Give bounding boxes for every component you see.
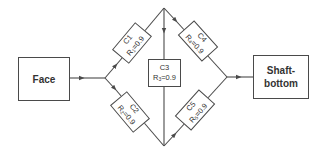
c3-name: C3 bbox=[160, 63, 170, 73]
arrow-to-c5 bbox=[164, 133, 176, 146]
arrow-to-c1 bbox=[105, 64, 117, 78]
shaft-bottom-node: Shaft- bottom bbox=[253, 55, 309, 99]
reliability-diagram: Face Shaft- bottom C1 R1=0.9 C2 R2=0.9 C… bbox=[0, 0, 325, 152]
arrow-to-c2 bbox=[105, 78, 116, 90]
shaft-bottom-label-line1: Shaft- bbox=[267, 64, 295, 77]
component-c3: C3 R3=0.9 bbox=[148, 59, 181, 87]
arrow-to-c4 bbox=[164, 8, 177, 22]
shaft-bottom-label-line2: bottom bbox=[264, 77, 298, 90]
face-node: Face bbox=[18, 57, 70, 101]
c3-reliability: R3=0.9 bbox=[153, 73, 176, 84]
face-label: Face bbox=[33, 73, 56, 86]
